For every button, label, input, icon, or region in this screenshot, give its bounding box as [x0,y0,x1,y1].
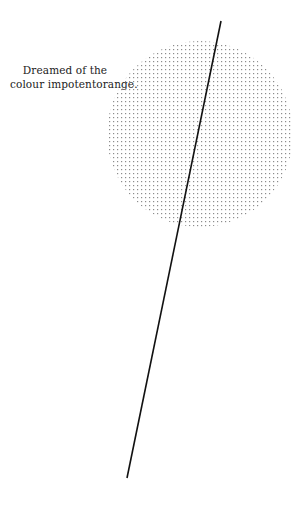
illustration [0,0,306,526]
dotted-circle [107,41,293,227]
